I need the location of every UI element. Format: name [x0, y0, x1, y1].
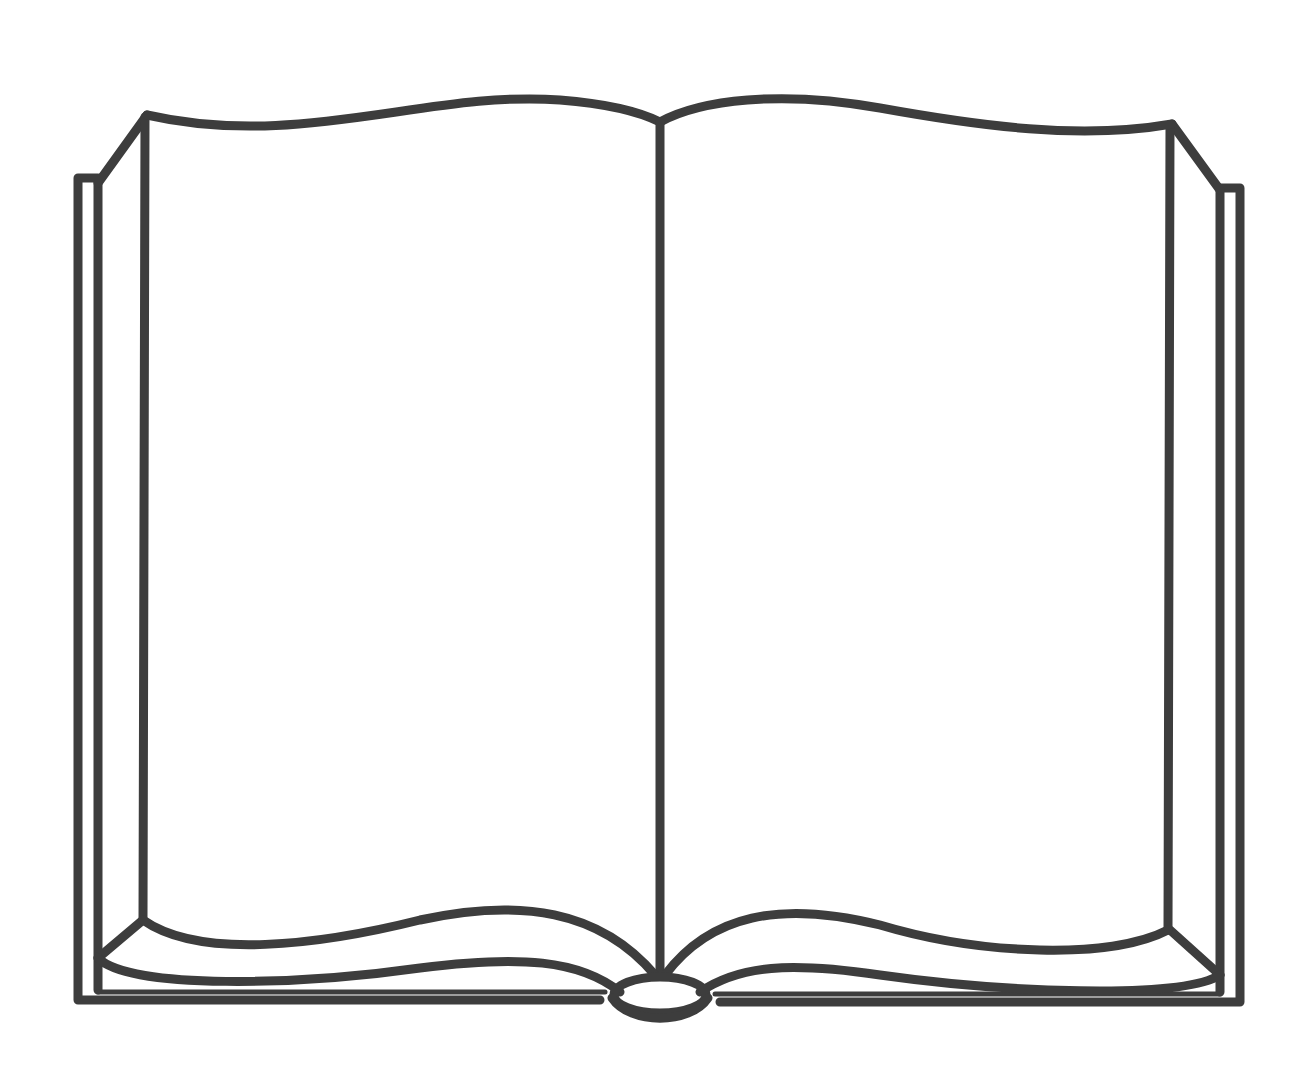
book-icon [0, 0, 1310, 1089]
right-lower-fan-curve [700, 968, 1220, 992]
left-page-bottom-curve [143, 910, 655, 975]
right-page-edge-top [1172, 124, 1220, 190]
right-page-bottom-curve [665, 913, 1168, 975]
left-page-edge-bottom [98, 920, 143, 958]
right-page-edge-bottom [1170, 930, 1220, 975]
left-page-top-curve [147, 99, 660, 126]
open-book-illustration [0, 0, 1310, 1089]
left-cover [78, 178, 600, 1000]
binding-bottom [612, 998, 708, 1018]
left-page-side [143, 117, 145, 920]
right-page-top-curve [660, 99, 1172, 131]
right-cover [720, 188, 1240, 1002]
left-lower-fan-curve [98, 958, 620, 992]
left-page-edge-top [98, 115, 147, 183]
right-page-side [1168, 126, 1170, 930]
